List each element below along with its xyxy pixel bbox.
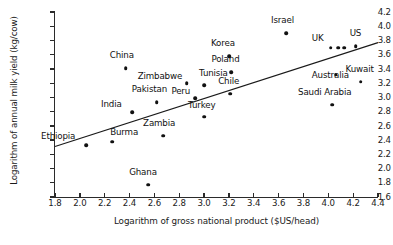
data-point (330, 103, 334, 107)
data-point-label: Australia (312, 71, 349, 80)
data-point-label: Saudi Arabia (298, 88, 351, 97)
data-point (230, 71, 234, 75)
data-point (284, 32, 288, 36)
data-point (343, 46, 347, 50)
data-point (146, 183, 150, 187)
data-point-label: Korea (211, 39, 235, 48)
data-point-label: Zimbabwe (138, 72, 182, 81)
data-point-label: Ethiopia (41, 132, 75, 141)
data-point (228, 92, 232, 96)
data-point (155, 101, 159, 105)
data-point-label: UK (312, 34, 324, 43)
data-point-label: Israel (271, 16, 294, 25)
data-point-label: Kuwait (346, 65, 374, 74)
data-point-label: Peru (171, 87, 190, 96)
data-point (202, 115, 206, 119)
data-point-label: Burma (110, 128, 138, 137)
data-point (124, 66, 128, 70)
data-point-label: Chile (218, 77, 239, 86)
page-bleed-artifact (4, 236, 154, 243)
data-point-label: Poland (211, 55, 239, 64)
data-point (354, 44, 358, 48)
data-point (130, 111, 134, 115)
data-point (329, 46, 333, 50)
data-point (84, 143, 88, 147)
data-point (359, 80, 363, 84)
data-point (202, 83, 206, 87)
y-axis-title: Logarithm of annual milk yield (kg/cow) (10, 8, 19, 194)
data-point-label: US (350, 29, 362, 38)
data-point (110, 140, 114, 144)
data-point-label: China (110, 51, 134, 60)
data-point-label: Turkey (188, 101, 215, 110)
data-point-label: Pakistan (132, 85, 167, 94)
data-point-label: Zambia (143, 119, 175, 128)
data-point-label: India (101, 100, 122, 109)
data-point (336, 46, 340, 50)
data-point (227, 54, 231, 58)
data-point (161, 134, 165, 138)
x-axis-title: Logarithm of gross national product ($US… (55, 217, 378, 226)
data-point (185, 81, 189, 85)
data-point-label: Ghana (129, 168, 157, 177)
